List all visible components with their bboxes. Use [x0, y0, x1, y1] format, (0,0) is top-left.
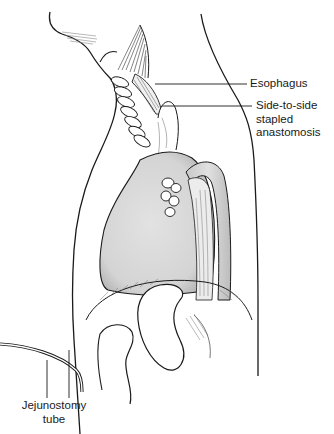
jejunostomy-label-line1: Jejunostomy: [16, 399, 92, 413]
anastomosis-top: [158, 102, 178, 150]
anastomosis-label-line3: anastomosis: [256, 126, 321, 140]
mesentery-fold: [194, 315, 210, 358]
jejunostomy-label: Jejunostomy tube: [16, 399, 92, 426]
jejunum-loop-1: [138, 284, 184, 370]
anatomy-illustration: [0, 0, 334, 434]
esophagus: [132, 74, 161, 114]
pharyngeal-muscle: [118, 25, 149, 78]
esophagus-label: Esophagus: [250, 77, 308, 90]
anastomosis-label: Side-to-side stapled anastomosis: [256, 99, 321, 140]
anastomosis-label-line1: Side-to-side: [256, 99, 321, 113]
jejunostomy-label-line2: tube: [16, 413, 92, 427]
jejunum-loop-3: [98, 334, 102, 390]
jaw-outline: [100, 51, 117, 62]
jejunostomy-tube-inner: [0, 344, 82, 392]
anastomosis-label-line2: stapled: [256, 113, 321, 127]
jejunum-loop-2: [100, 325, 133, 404]
chin-shading: [62, 32, 97, 44]
